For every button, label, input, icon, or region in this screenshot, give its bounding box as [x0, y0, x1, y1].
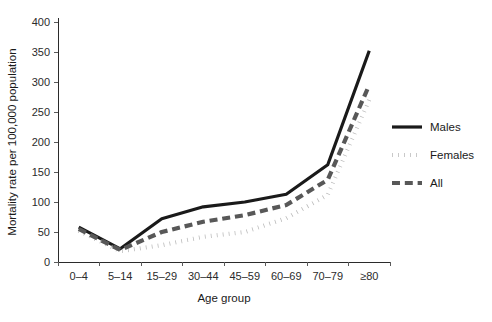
x-tick-label: 5–14	[108, 270, 132, 282]
x-axis-title: Age group	[197, 292, 250, 304]
x-tick-label: 45–59	[229, 270, 260, 282]
legend-label-all: All	[430, 177, 443, 189]
y-tick-label: 0	[44, 256, 50, 268]
legend-label-females: Females	[430, 149, 474, 161]
y-tick-label: 50	[38, 226, 50, 238]
y-tick-label: 350	[32, 46, 50, 58]
y-tick-label: 250	[32, 106, 50, 118]
series-line-females	[79, 100, 370, 251]
x-tick-label: ≥80	[360, 270, 378, 282]
y-tick-label: 150	[32, 166, 50, 178]
x-tick-label: 70–79	[312, 270, 343, 282]
y-tick-label: 200	[32, 136, 50, 148]
x-tick-label: 15–29	[146, 270, 177, 282]
legend-label-males: Males	[430, 121, 461, 133]
y-tick-label: 400	[32, 16, 50, 28]
chart-svg: 0501001502002503003504000–45–1415–2930–4…	[0, 0, 492, 322]
x-tick-label: 30–44	[188, 270, 219, 282]
x-tick-label: 60–69	[271, 270, 302, 282]
x-tick-label: 0–4	[70, 270, 88, 282]
y-tick-label: 300	[32, 76, 50, 88]
y-tick-label: 100	[32, 196, 50, 208]
mortality-rate-line-chart: 0501001502002503003504000–45–1415–2930–4…	[0, 0, 492, 322]
y-axis-title: Mortality rate per 100,000 population	[6, 48, 18, 235]
